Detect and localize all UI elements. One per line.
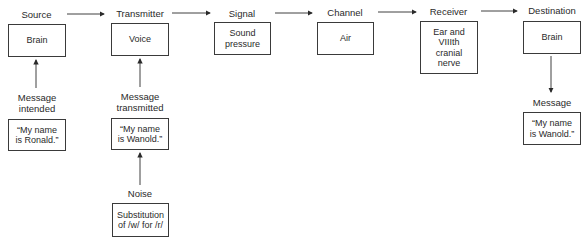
message-transmitted-box: “My name is Wanold.”	[111, 118, 169, 150]
signal-box: Sound pressure	[214, 22, 271, 55]
receiver-box: Ear and VIIIth cranial nerve	[420, 21, 478, 74]
message-received-label: Message	[523, 97, 581, 108]
message-transmitted-label: Message transmitted	[106, 91, 174, 113]
message-intended-box: “My name is Ronald.”	[8, 119, 66, 151]
source-box: Brain	[8, 24, 66, 57]
noise-label: Noise	[111, 188, 169, 199]
stage-label-source: Source	[8, 9, 65, 20]
flow-arrows	[0, 0, 585, 242]
stage-label-channel: Channel	[317, 7, 373, 18]
message-intended-label: Message intended	[6, 92, 68, 114]
channel-box: Air	[317, 22, 374, 55]
noise-box: Substitution of /w/ for /r/	[112, 203, 169, 237]
stage-label-signal: Signal	[214, 8, 270, 19]
stage-label-receiver: Receiver	[420, 6, 477, 17]
stage-label-transmitter: Transmitter	[106, 8, 174, 19]
destination-box: Brain	[523, 21, 581, 54]
message-received-box: “My name is Wanold.”	[523, 112, 581, 145]
stage-label-destination: Destination	[519, 5, 585, 16]
transmitter-box: Voice	[111, 23, 169, 56]
